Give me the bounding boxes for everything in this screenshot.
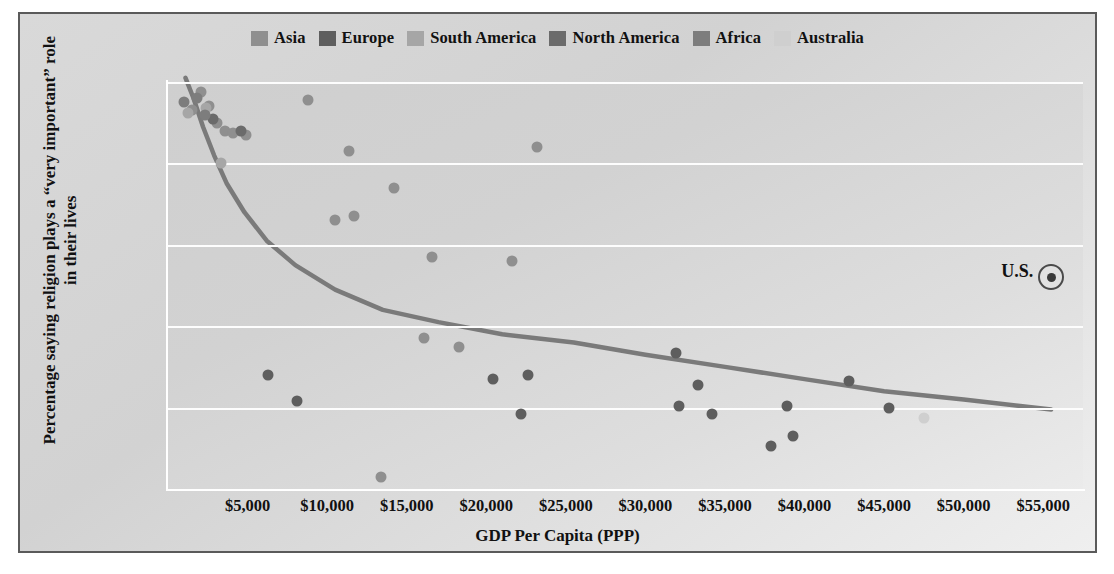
- data-point: [532, 142, 543, 153]
- data-point: [349, 211, 360, 222]
- data-point: [506, 256, 517, 267]
- gridline-y: [168, 245, 1083, 247]
- gridline-y: [168, 408, 1083, 410]
- legend-item-south-america: South America: [407, 28, 536, 48]
- legend-swatch-icon: [407, 31, 424, 46]
- data-point: [918, 412, 929, 423]
- legend-item-africa: Africa: [693, 28, 762, 48]
- x-tick-label: $55,000: [983, 496, 1097, 516]
- legend-swatch-icon: [319, 31, 336, 46]
- legend-label: Australia: [797, 28, 864, 48]
- legend-label: Europe: [342, 28, 395, 48]
- legend-item-asia: Asia: [251, 28, 306, 48]
- legend-item-north-america: North America: [549, 28, 679, 48]
- x-axis-label: GDP Per Capita (PPP): [20, 526, 1095, 546]
- data-point: [673, 400, 684, 411]
- gridline-y: [168, 163, 1083, 165]
- us-annotation-label: U.S.: [1001, 261, 1033, 282]
- legend-swatch-icon: [251, 31, 268, 46]
- data-point: [182, 107, 193, 118]
- data-point: [516, 408, 527, 419]
- data-point: [782, 400, 793, 411]
- data-point: [191, 93, 202, 104]
- legend-label: South America: [430, 28, 536, 48]
- data-point: [388, 182, 399, 193]
- data-point: [670, 347, 681, 358]
- y-axis-line: [166, 80, 168, 491]
- y-axis-label: Percentage saying religion plays a “very…: [39, 30, 82, 450]
- data-point: [236, 125, 247, 136]
- data-point: [522, 370, 533, 381]
- legend-label: Africa: [716, 28, 762, 48]
- data-point: [707, 408, 718, 419]
- data-point: [766, 441, 777, 452]
- data-point: [344, 146, 355, 157]
- data-point: [454, 341, 465, 352]
- data-point: [263, 370, 274, 381]
- gridline-y: [168, 326, 1083, 328]
- data-point: [376, 471, 387, 482]
- legend-swatch-icon: [774, 31, 791, 46]
- data-point: [330, 215, 341, 226]
- data-point: [788, 431, 799, 442]
- x-axis-line: [166, 489, 1085, 491]
- chart-legend: AsiaEuropeSouth AmericaNorth AmericaAfri…: [20, 28, 1095, 48]
- legend-item-europe: Europe: [319, 28, 395, 48]
- legend-label: Asia: [274, 28, 306, 48]
- data-point: [178, 97, 189, 108]
- legend-item-australia: Australia: [774, 28, 864, 48]
- legend-swatch-icon: [693, 31, 710, 46]
- data-point: [303, 95, 314, 106]
- us-data-point: [1038, 264, 1064, 290]
- chart-figure: AsiaEuropeSouth AmericaNorth AmericaAfri…: [18, 12, 1097, 553]
- legend-label: North America: [572, 28, 679, 48]
- data-point: [215, 158, 226, 169]
- data-point: [419, 333, 430, 344]
- data-point: [427, 252, 438, 263]
- data-point: [883, 402, 894, 413]
- data-point: [291, 396, 302, 407]
- gridline-y: [168, 82, 1083, 84]
- legend-swatch-icon: [549, 31, 566, 46]
- data-point: [199, 109, 210, 120]
- data-point: [692, 380, 703, 391]
- data-point: [844, 376, 855, 387]
- trendline: [168, 82, 1083, 489]
- data-point: [487, 374, 498, 385]
- plot-area: [168, 82, 1083, 489]
